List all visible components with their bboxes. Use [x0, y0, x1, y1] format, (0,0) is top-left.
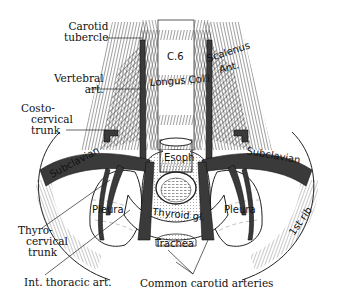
label-pleura-left: Pleura — [92, 204, 124, 215]
label-esoph: Esoph — [164, 152, 194, 163]
label-carotid-tubercle-line2: tubercle — [52, 32, 108, 43]
label-trachea: Trachea — [154, 238, 194, 249]
label-vertebral-art: Vertebral art. — [54, 73, 104, 95]
label-int-thoracic-art: Int. thoracic art. — [24, 277, 112, 288]
label-thyrocervical-line3: trunk — [18, 247, 68, 258]
label-common-carotid-arteries: Common carotid arteries — [140, 278, 274, 289]
label-carotid-tubercle: Carotid tubercle — [52, 21, 108, 43]
label-c6: C.6 — [167, 51, 184, 62]
label-pleura-right: Pleura — [224, 204, 256, 215]
label-costocervical-line3: trunk — [21, 125, 73, 136]
label-vertebral-art-line2: art. — [54, 84, 104, 95]
label-thyrocervical-trunk: Thyro- cervical trunk — [18, 225, 68, 258]
label-costocervical-trunk: Costo- cervical trunk — [21, 103, 73, 136]
